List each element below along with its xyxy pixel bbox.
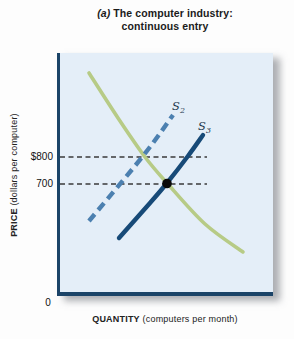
curves-group (89, 73, 243, 252)
s2-curve (89, 115, 173, 221)
s3-curve-label: S3 (198, 119, 211, 135)
figure-panel: (a) The computer industry: continuous en… (0, 0, 294, 339)
s3-curve (119, 135, 203, 238)
equilibrium-dot (162, 179, 172, 189)
curves-overlay: S2 S3 (0, 0, 294, 339)
demand-curve (89, 73, 243, 252)
s2-curve-label: S2 (172, 99, 185, 115)
